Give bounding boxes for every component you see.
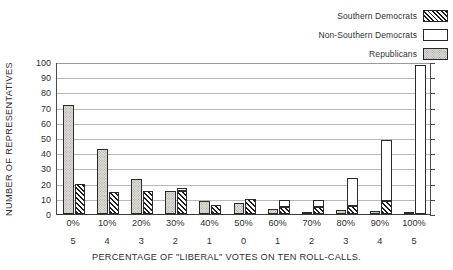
y-axis-tick (430, 154, 435, 155)
x-axis-tick-label-percent: 30% (166, 218, 184, 228)
chart-figure: Southern Democrats Non-Southern Democrat… (0, 0, 453, 270)
bar-republicans (336, 210, 347, 214)
y-axis-tick (430, 78, 435, 79)
gridline (57, 93, 430, 94)
y-axis-tick (430, 139, 435, 140)
x-axis-tick-label-count: 1 (207, 236, 212, 246)
bar-republicans (302, 212, 313, 214)
gridline (57, 109, 430, 110)
x-axis-tick-label-count: 5 (411, 236, 416, 246)
bar-non-southern-democrats (347, 178, 358, 207)
bar-southern-democrats (211, 205, 222, 214)
bar-southern-democrats (313, 207, 324, 214)
legend-label: Non-Southern Democrats (318, 30, 417, 40)
x-axis-tick-label-percent: 40% (200, 218, 218, 228)
y-axis-tick (430, 169, 435, 170)
y-axis-title-text: NUMBER OF REPRESENTATIVES (4, 62, 14, 216)
y-axis-tick (430, 185, 435, 186)
y-axis-tick-label: 0 (46, 210, 51, 220)
y-axis-tick-label: 100 (36, 58, 51, 68)
y-axis-tick (430, 200, 435, 201)
y-axis-tick-label: 30 (41, 164, 51, 174)
white-swatch-icon (423, 29, 448, 41)
bar-non-southern-democrats (177, 188, 188, 191)
bar-republicans (199, 201, 210, 214)
y-axis-tick-label: 90 (41, 73, 51, 83)
gridline (57, 63, 430, 64)
x-axis-tick-label-count: 0 (241, 236, 246, 246)
bar-southern-democrats (75, 184, 86, 214)
bar-southern-democrats (381, 201, 392, 214)
x-axis-tick-label-percent: 100% (402, 218, 426, 228)
legend-item-republicans: Republicans (262, 44, 448, 63)
bar-non-southern-democrats (279, 200, 290, 207)
legend-item-southern-democrats: Southern Democrats (262, 6, 448, 25)
bar-southern-democrats (177, 191, 188, 214)
stipple-swatch-icon (423, 48, 448, 60)
x-axis-tick-label-percent: 20% (132, 218, 150, 228)
y-axis-tick (430, 124, 435, 125)
y-axis-tick-label: 80 (41, 88, 51, 98)
legend-label: Republicans (369, 49, 417, 59)
bar-southern-democrats (109, 192, 120, 214)
x-axis-tick-label-count: 5 (70, 236, 75, 246)
bar-southern-democrats (279, 207, 290, 214)
bar-non-southern-democrats (381, 140, 392, 201)
x-axis-tick-label-count: 3 (139, 236, 144, 246)
x-axis-tick-label-count: 2 (173, 236, 178, 246)
chart-legend: Southern Democrats Non-Southern Democrat… (262, 6, 448, 63)
bar-republicans (370, 211, 381, 214)
bar-republicans (63, 105, 74, 214)
legend-item-non-southern-democrats: Non-Southern Democrats (262, 25, 448, 44)
bar-non-southern-democrats (415, 65, 426, 214)
x-axis-tick-label-percent: 50% (234, 218, 252, 228)
bar-southern-democrats (245, 199, 256, 214)
x-axis-title: PERCENTAGE OF "LIBERAL" VOTES ON TEN ROL… (0, 252, 453, 262)
gridline (57, 154, 430, 155)
x-axis-tick-label-count: 1 (275, 236, 280, 246)
y-axis-title: NUMBER OF REPRESENTATIVES (2, 63, 16, 215)
x-axis-tick-label-percent: 0% (66, 218, 79, 228)
gridline (57, 185, 430, 186)
x-axis-tick-label-count: 4 (105, 236, 110, 246)
legend-label: Southern Democrats (337, 11, 417, 21)
gridline (57, 169, 430, 170)
plot-area: 0102030405060708090100 (56, 63, 431, 215)
y-axis-tick (430, 215, 435, 216)
bar-southern-democrats (347, 206, 358, 214)
hatch-swatch-icon (423, 10, 448, 22)
bar-non-southern-democrats (313, 200, 324, 207)
x-axis-tick-label-percent: 60% (268, 218, 286, 228)
y-axis-tick-label: 20 (41, 180, 51, 190)
x-axis-tick-label-percent: 90% (371, 218, 389, 228)
x-axis-tick-label-percent: 80% (337, 218, 355, 228)
y-axis-tick-label: 60 (41, 119, 51, 129)
y-axis-tick (430, 109, 435, 110)
bar-republicans (131, 179, 142, 214)
gridline (57, 78, 430, 79)
x-axis-tick-label-count: 3 (343, 236, 348, 246)
y-axis-tick-label: 70 (41, 104, 51, 114)
bar-republicans (234, 203, 245, 214)
y-axis-tick (430, 63, 435, 64)
x-axis-tick-label-count: 2 (309, 236, 314, 246)
y-axis-tick-label: 50 (41, 134, 51, 144)
bar-republicans (97, 149, 108, 214)
bar-republicans (268, 209, 279, 214)
bar-southern-democrats (143, 191, 154, 214)
x-axis-tick-label-percent: 70% (302, 218, 320, 228)
y-axis-tick (430, 93, 435, 94)
bar-republicans (165, 191, 176, 214)
x-axis-tick-label-percent: 10% (98, 218, 116, 228)
gridline (57, 124, 430, 125)
gridline (57, 139, 430, 140)
y-axis-tick-label: 10 (41, 195, 51, 205)
y-axis-tick-label: 40 (41, 149, 51, 159)
bar-republicans (404, 212, 415, 214)
x-axis-tick-label-count: 4 (377, 236, 382, 246)
